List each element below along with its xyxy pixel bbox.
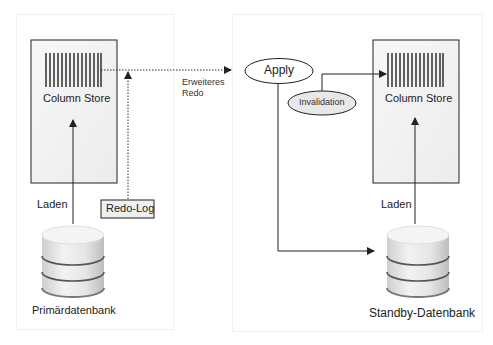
invalidation-label: Invalidation — [299, 97, 345, 107]
diagram-canvas — [0, 0, 493, 345]
redo-log-label: Redo-Log — [106, 202, 154, 214]
apply-label: Apply — [264, 63, 294, 77]
extended-redo-label-line1: Erweiteres — [182, 77, 225, 87]
primary-database-label: Primärdatenbank — [32, 304, 116, 316]
extended-redo-label-line2: Redo — [182, 88, 204, 98]
standby-column-store-label: Column Store — [385, 92, 452, 104]
primary-load-label: Laden — [37, 198, 68, 210]
primary-column-store-label: Column Store — [43, 92, 110, 104]
standby-column-store-box — [373, 40, 459, 183]
standby-database-label: Standby-Datenbank — [369, 306, 475, 320]
primary-database-icon — [42, 226, 104, 297]
primary-column-store-box — [31, 40, 117, 183]
standby-load-label: Laden — [381, 198, 412, 210]
standby-database-icon — [387, 226, 449, 297]
